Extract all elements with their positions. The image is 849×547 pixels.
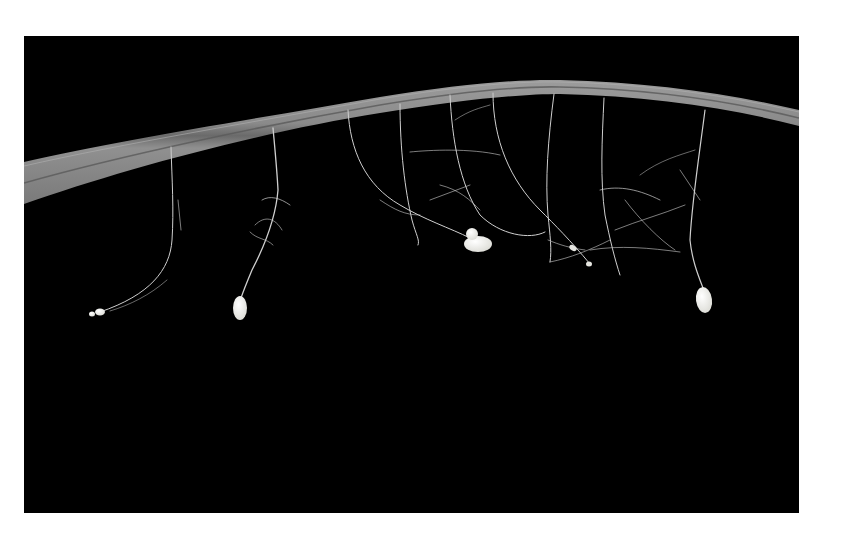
egg-2 [233,296,247,320]
egg-fragment [586,262,592,267]
photo: Stalked white insect eggs hanging on sil… [24,36,799,513]
photo-scene [24,36,799,513]
